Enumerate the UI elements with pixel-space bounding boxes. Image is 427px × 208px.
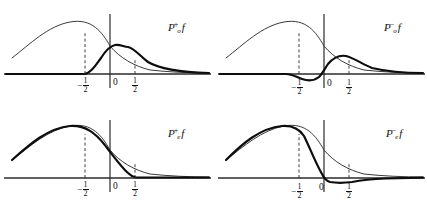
minus-sign: − [291, 83, 296, 92]
operator-subscript: e [395, 133, 398, 141]
operator-function: f [398, 21, 401, 33]
tick-pos-half-bottom-right: 12 [346, 183, 352, 201]
operator-label-bottom-right: P−ef [386, 127, 402, 141]
fraction-one-half: 12 [83, 181, 89, 199]
minus-sign: − [77, 81, 82, 90]
operator-subscript: o [393, 27, 397, 35]
transformed-curve [220, 56, 423, 81]
fraction-one-half: 12 [83, 77, 89, 95]
tick-zero-bottom-right: 0 [319, 183, 324, 193]
operator-label-top-right: P−of [384, 21, 401, 35]
tick-pos-half-bottom-left: 12 [132, 181, 138, 199]
operator-label-bottom-left: P+ef [168, 127, 184, 141]
tick-pos-half-top-right: 12 [346, 79, 352, 97]
fraction-one-half: 12 [132, 181, 138, 199]
panel-top-left: P+of −12 0 12 [0, 0, 213, 104]
tick-neg-half-top-right: −12 [291, 79, 303, 97]
figure-container: P+of −12 0 12 P−of −12 0 12 [0, 0, 427, 208]
tick-zero-bottom-left: 0 [113, 182, 118, 192]
operator-subscript: o [177, 27, 181, 35]
tick-zero-top-right: 0 [327, 79, 332, 89]
operator-function: f [182, 21, 185, 33]
panel-bottom-right: P−ef −12 0 12 [214, 104, 427, 208]
operator-subscript: e [177, 133, 180, 141]
fraction-one-half: 12 [346, 79, 352, 97]
tick-neg-half-bottom-left: −12 [77, 181, 89, 199]
operator-function: f [181, 127, 184, 139]
fraction-one-half: 12 [297, 79, 303, 97]
tick-neg-half-bottom-right: −12 [291, 183, 303, 201]
fraction-one-half: 12 [346, 183, 352, 201]
operator-function: f [399, 127, 402, 139]
minus-sign: − [77, 185, 82, 194]
panel-top-right: P−of −12 0 12 [214, 0, 427, 104]
fraction-one-half: 12 [297, 183, 303, 201]
fraction-one-half: 12 [132, 77, 138, 95]
transformed-curve [6, 45, 209, 74]
operator-label-top-left: P+of [168, 21, 185, 35]
tick-zero-top-left: 0 [113, 78, 118, 88]
tick-neg-half-top-left: −12 [77, 77, 89, 95]
minus-sign: − [291, 187, 296, 196]
panel-bottom-left: P+ef −12 0 12 [0, 104, 213, 208]
tick-pos-half-top-left: 12 [132, 77, 138, 95]
